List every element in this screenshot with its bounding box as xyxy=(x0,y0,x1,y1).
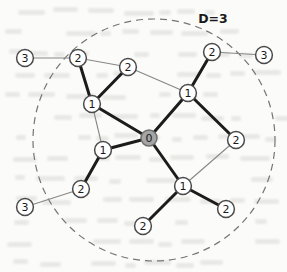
node-label: 1 xyxy=(185,87,192,100)
graph-diagram: 322231102123122 D=3 xyxy=(0,0,287,272)
node-label: 1 xyxy=(89,98,96,111)
graph-node-n2c: 2 xyxy=(204,44,221,61)
graph-node-n1a: 1 xyxy=(84,96,101,113)
node-label: 2 xyxy=(140,220,147,233)
node-label: 0 xyxy=(146,132,153,145)
scanned-figure-page: 322231102123122 D=3 xyxy=(0,0,287,272)
graph-node-n1d: 1 xyxy=(175,178,192,195)
node-label: 2 xyxy=(233,134,240,147)
thin-edges-group xyxy=(25,52,264,207)
graph-node-n1c: 1 xyxy=(95,142,112,159)
graph-node-n3c: 3 xyxy=(17,199,34,216)
node-label: 3 xyxy=(22,201,29,214)
node-label: 3 xyxy=(22,52,29,65)
graph-node-n0: 0 xyxy=(141,130,157,146)
graph-node-n2g: 2 xyxy=(218,201,235,218)
edge-n2d-n1d xyxy=(183,140,236,186)
node-label: 2 xyxy=(223,203,230,216)
distance-label: D=3 xyxy=(198,11,228,26)
graph-node-n3b: 3 xyxy=(256,47,273,64)
node-label: 2 xyxy=(78,183,85,196)
graph-node-n2b: 2 xyxy=(120,59,137,76)
node-label: 1 xyxy=(100,144,107,157)
graph-node-n3a: 3 xyxy=(17,50,34,67)
graph-node-n2d: 2 xyxy=(228,132,245,149)
edge-n1b-n2d xyxy=(188,93,236,140)
nodes-group: 322231102123122 xyxy=(17,44,273,235)
edge-n1a-n0 xyxy=(92,104,149,138)
graph-node-n1b: 1 xyxy=(180,85,197,102)
node-label: 1 xyxy=(180,180,187,193)
graph-node-n2f: 2 xyxy=(135,218,152,235)
node-label: 2 xyxy=(209,46,216,59)
node-label: 2 xyxy=(75,52,82,65)
graph-node-n2a: 2 xyxy=(70,50,87,67)
graph-node-n2e: 2 xyxy=(73,181,90,198)
node-label: 2 xyxy=(125,61,132,74)
edge-n2b-n1b xyxy=(128,67,188,93)
node-label: 3 xyxy=(261,49,268,62)
